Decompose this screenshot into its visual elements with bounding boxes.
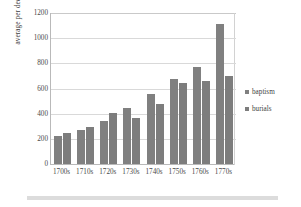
bar-baptism-1700s <box>54 136 62 164</box>
bar-chart-figure: average per decade 020040060080010001200… <box>0 0 301 207</box>
bar-burials-1750s <box>179 83 187 164</box>
x-tick-label: 1720s <box>96 168 119 176</box>
legend-item-baptism[interactable]: baptism <box>245 88 299 96</box>
bar-group <box>120 13 143 164</box>
plot-area <box>50 13 235 165</box>
x-tick-label: 1740s <box>143 168 166 176</box>
bar-baptism-1770s <box>216 24 224 164</box>
y-axis-title: average per decade <box>14 0 24 64</box>
bar-baptism-1730s <box>123 108 131 164</box>
y-tick-label: 400 <box>24 110 48 117</box>
bar-burials-1700s <box>63 133 71 164</box>
x-tick-label: 1770s <box>212 168 235 176</box>
legend-swatch-icon <box>245 107 249 111</box>
bar-group <box>190 13 213 164</box>
bar-burials-1740s <box>156 104 164 164</box>
y-axis-tick-labels: 020040060080010001200 <box>24 13 48 165</box>
legend-item-burials[interactable]: burials <box>245 105 299 113</box>
bar-burials-1770s <box>225 76 233 164</box>
bar-group <box>74 13 97 164</box>
bar-baptism-1710s <box>77 130 85 164</box>
bar-group <box>97 13 120 164</box>
bar-group <box>144 13 167 164</box>
legend-swatch-icon <box>245 90 249 94</box>
bar-baptism-1740s <box>147 94 155 164</box>
bar-burials-1730s <box>132 118 140 164</box>
x-tick-label: 1730s <box>119 168 142 176</box>
bar-baptism-1750s <box>170 79 178 164</box>
bar-group <box>213 13 236 164</box>
y-tick-label: 800 <box>24 60 48 67</box>
y-tick-label: 1000 <box>24 35 48 42</box>
y-tick-label: 0 <box>24 161 48 168</box>
y-tick-label: 600 <box>24 85 48 92</box>
x-tick-label: 1700s <box>50 168 73 176</box>
y-tick-label: 1200 <box>24 10 48 17</box>
legend-label: baptism <box>252 88 275 96</box>
x-axis-tick-labels: 1700s1710s1720s1730s1740s1750s1760s1770s <box>50 168 235 176</box>
y-tick-label: 200 <box>24 135 48 142</box>
bar-burials-1710s <box>86 127 94 164</box>
legend-label: burials <box>252 105 272 113</box>
chart-legend: baptismburials <box>245 88 299 122</box>
x-tick-label: 1710s <box>73 168 96 176</box>
bar-baptism-1720s <box>100 121 108 164</box>
bar-burials-1760s <box>202 81 210 164</box>
bar-baptism-1760s <box>193 67 201 164</box>
bars-layer <box>51 13 236 164</box>
x-tick-label: 1760s <box>189 168 212 176</box>
bottom-divider <box>27 196 278 200</box>
bar-group <box>167 13 190 164</box>
bar-group <box>51 13 74 164</box>
x-tick-label: 1750s <box>166 168 189 176</box>
bar-burials-1720s <box>109 113 117 164</box>
